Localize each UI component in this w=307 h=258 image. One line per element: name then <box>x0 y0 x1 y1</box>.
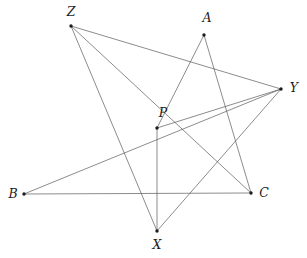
geometry-figure: ZAYPBCX <box>0 0 307 258</box>
segment-p-y <box>157 89 281 128</box>
vertex-point-b <box>22 192 25 195</box>
vertex-point-z <box>69 24 72 27</box>
vertices-group <box>22 24 282 232</box>
figure-canvas <box>0 0 307 258</box>
segments-group <box>24 26 281 231</box>
vertex-label-b: B <box>8 188 17 201</box>
vertex-point-c <box>249 191 252 194</box>
vertex-label-p: P <box>159 107 167 120</box>
vertex-point-p <box>155 126 158 129</box>
vertex-point-a <box>202 33 205 36</box>
vertex-label-a: A <box>202 12 211 25</box>
vertex-point-y <box>279 87 282 90</box>
vertex-label-x: X <box>153 239 162 252</box>
segment-b-c <box>24 193 251 194</box>
segment-b-y <box>24 89 281 194</box>
vertex-label-y: Y <box>290 82 298 95</box>
segment-x-y <box>157 89 281 231</box>
vertex-label-z: Z <box>67 6 76 19</box>
segment-z-y <box>71 26 281 89</box>
vertex-label-c: C <box>259 187 269 200</box>
vertex-point-x <box>155 229 158 232</box>
segment-z-x <box>71 26 157 231</box>
